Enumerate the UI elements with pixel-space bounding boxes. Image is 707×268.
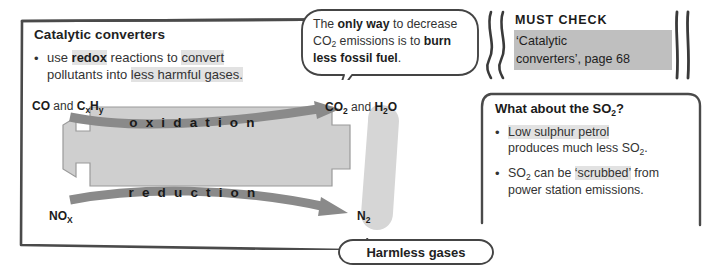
inlet-label-hydrocarbons: CO and CxHy [32, 99, 104, 113]
speech-bubble-text: The only way to decreaseCO2 emissions is… [313, 16, 471, 67]
wave-right-2 [687, 12, 688, 78]
outlet-label-n2: N2 [357, 209, 370, 223]
must-check-title: MUST CHECK [515, 13, 607, 27]
bullet-marker-icon: • [495, 125, 500, 142]
diagram-page: Catalytic converters • use redox reactio… [0, 0, 707, 268]
so2-title: What about the SO2? [495, 101, 624, 116]
reduction-label: r e d u c t i o n [129, 185, 258, 200]
harmless-gases-label: Harmless gases [337, 238, 495, 266]
outlet-label-co2-h2o: CO2 and H2O [325, 100, 397, 114]
inlet-label-nox: NOX [49, 209, 73, 223]
harmless-gases-callout: Harmless gases [337, 238, 495, 266]
so2-bullet-1: • Low sulphur petrolproduces much less S… [495, 124, 687, 158]
must-check-line2: converters’, page 68 [516, 52, 630, 66]
so2-panel: What about the SO2? • Low sulphur petrol… [478, 91, 703, 227]
oxidation-label: o x i d a t i o n [129, 115, 256, 130]
bullet-marker-icon: • [495, 166, 500, 183]
must-check-box: MUST CHECK ‘Catalyticconverters’, page 6… [481, 6, 703, 82]
so2-bullet-2: • SO2 can be ‘scrubbed’ frompower statio… [495, 165, 687, 199]
must-check-reference: ‘Catalyticconverters’, page 68 [514, 30, 672, 70]
speech-bubble-callout: The only way to decreaseCO2 emissions is… [300, 8, 480, 80]
wave-left-2 [499, 12, 504, 78]
must-check-line1: ‘Catalytic [516, 34, 567, 48]
wave-left-1 [487, 12, 492, 78]
wave-right-1 [676, 12, 677, 78]
